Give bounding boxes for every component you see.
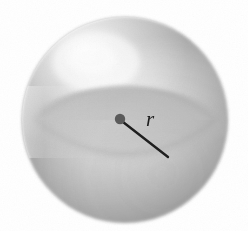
scan-grain-overlay xyxy=(0,0,248,231)
sphere-diagram-svg: r xyxy=(0,0,248,231)
sphere-diagram-canvas: r xyxy=(0,0,248,231)
